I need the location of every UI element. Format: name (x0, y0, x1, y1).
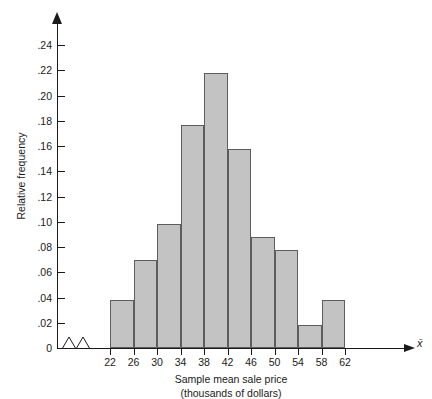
y-tick (58, 121, 65, 122)
x-tick (134, 349, 135, 355)
y-tick-label: .04 (14, 293, 52, 304)
y-tick (58, 247, 65, 248)
histogram-bar (134, 260, 158, 348)
x-axis-title-line2: (thousands of dollars) (57, 386, 405, 399)
histogram-figure: 0.02.04.06.08.10.12.14.16.18.20.22.24 22… (0, 0, 432, 399)
x-tick-label: 62 (330, 357, 360, 368)
y-tick (58, 70, 65, 71)
y-tick (58, 171, 65, 172)
y-tick-label: .06 (14, 267, 52, 278)
x-axis-title: Sample mean sale price (thousands of dol… (57, 372, 405, 399)
y-tick (58, 146, 65, 147)
axis-break-icon (62, 336, 90, 350)
y-tick-label: .20 (14, 91, 52, 102)
y-tick (58, 222, 65, 223)
histogram-bar (204, 73, 228, 348)
y-tick (58, 197, 65, 198)
x-tick (275, 349, 276, 355)
histogram-bar (298, 325, 322, 348)
y-tick-label: .22 (14, 65, 52, 76)
x-tick (322, 349, 323, 355)
histogram-bar (110, 300, 134, 348)
x-tick (110, 349, 111, 355)
x-tick (157, 349, 158, 355)
x-bar-symbol: x̄ (417, 338, 423, 349)
x-tick (228, 349, 229, 355)
x-axis-title-line1: Sample mean sale price (57, 372, 405, 386)
y-tick-label: 0 (14, 343, 52, 354)
y-tick (58, 45, 65, 46)
histogram-bar (157, 224, 181, 348)
x-tick (345, 349, 346, 355)
y-tick (58, 96, 65, 97)
y-tick (58, 323, 65, 324)
x-tick (298, 349, 299, 355)
y-tick-label: .24 (14, 40, 52, 51)
histogram-bar (181, 125, 205, 348)
x-tick (181, 349, 182, 355)
y-axis-arrow-icon (52, 12, 62, 24)
histogram-bar (228, 149, 252, 348)
x-tick (204, 349, 205, 355)
histogram-bar (251, 237, 275, 348)
histogram-bar (322, 300, 346, 348)
histogram-bar (275, 250, 299, 348)
y-axis-title: Relative frequency (15, 106, 27, 246)
y-tick (58, 298, 65, 299)
x-axis-arrow-icon (404, 344, 415, 352)
y-tick-label: .02 (14, 318, 52, 329)
y-tick (58, 272, 65, 273)
x-tick (251, 349, 252, 355)
